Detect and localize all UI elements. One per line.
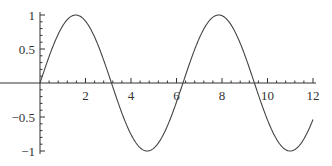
x-tick-label: 12 <box>307 88 320 103</box>
x-tick-label: 4 <box>128 88 135 103</box>
y-tick-label: −1 <box>21 144 35 159</box>
y-tick-label: 0.5 <box>19 42 35 57</box>
y-tick-label: 1 <box>29 8 36 23</box>
x-tick-label: 2 <box>82 88 89 103</box>
x-tick-label: 8 <box>219 88 226 103</box>
sine-chart: 24681012−1−0.50.51 <box>0 0 332 166</box>
y-tick-label: −0.5 <box>11 110 35 125</box>
x-tick-label: 10 <box>261 88 274 103</box>
